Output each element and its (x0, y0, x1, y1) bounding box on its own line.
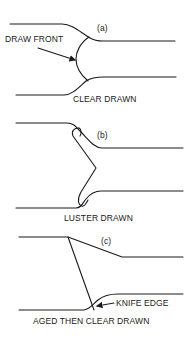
panel-b-luster-front (72, 128, 96, 206)
panel-c-knife-edge-front (68, 237, 94, 310)
draw-front-label: DRAW FRONT (5, 34, 63, 44)
panel-a-caption: CLEAR DRAWN (73, 94, 137, 104)
panel-b-caption: LUSTER DRAWN (64, 213, 133, 223)
panel-c-knife-edge-arrow (97, 303, 114, 306)
panel-a-draw-front-arrow (38, 48, 75, 60)
panel-a-bottom-wall (16, 77, 176, 95)
panel-b: (b) LUSTER DRAWN (16, 123, 183, 223)
panel-b-luster-loop-top (79, 128, 81, 136)
panel-b-bottom-wall (16, 191, 183, 208)
knife-edge-label: KNIFE EDGE (116, 298, 169, 308)
drawing-diagram: (a) DRAW FRONT CLEAR DRAWN (b) LUSTER DR… (0, 0, 193, 339)
panel-b-label: (b) (97, 130, 108, 140)
panel-c: (c) KNIFE EDGE AGED THEN CLEAR DRAWN (19, 236, 183, 326)
panel-a: (a) DRAW FRONT CLEAR DRAWN (5, 23, 176, 104)
panel-a-label: (a) (97, 23, 108, 33)
panel-c-label: (c) (101, 236, 111, 246)
panel-a-draw-front-curve (76, 37, 89, 81)
panel-c-caption: AGED THEN CLEAR DRAWN (33, 316, 149, 326)
